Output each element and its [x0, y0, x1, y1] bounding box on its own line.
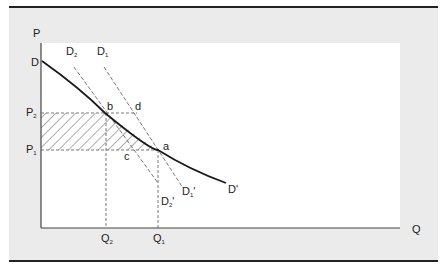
label-q1: Q1 — [153, 233, 165, 245]
label-d2: D2 — [66, 46, 77, 58]
hatched-region — [41, 113, 158, 150]
label-p2: P2 — [26, 107, 37, 119]
y-axis-label: P — [33, 28, 40, 39]
label-d: D — [31, 57, 39, 68]
label-point-c: c — [124, 151, 130, 162]
label-q2: Q2 — [101, 233, 113, 245]
label-p1: P1 — [26, 144, 37, 156]
label-point-b: b — [107, 101, 113, 112]
x-axis-label: Q — [412, 224, 421, 235]
label-d-prime: D' — [228, 184, 238, 195]
label-point-d: d — [135, 101, 141, 112]
label-d1-prime: D1' — [182, 186, 195, 198]
diagram-svg — [0, 0, 447, 270]
label-point-a: a — [163, 141, 169, 152]
label-d2-prime: D2' — [161, 196, 174, 208]
label-d1: D1 — [97, 46, 108, 58]
